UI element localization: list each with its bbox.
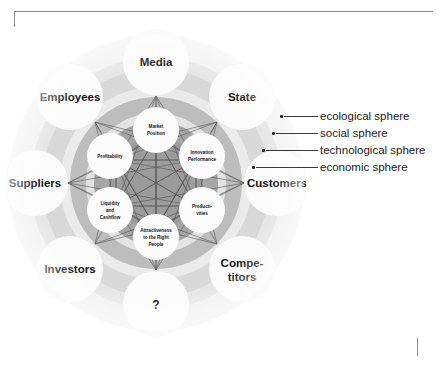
legend-dot-economic-sphere (252, 166, 255, 169)
legend-label-technological-sphere: technological sphere (320, 142, 426, 159)
legend-row-technological-sphere[interactable]: technological sphere (276, 142, 448, 159)
sphere-legend: ecological sphere social sphere technolo… (276, 108, 448, 176)
legend-label-social-sphere: social sphere (320, 125, 388, 142)
legend-row-social-sphere[interactable]: social sphere (276, 125, 448, 142)
spheres-diagram: Market Position Innovation Performance P… (6, 18, 306, 348)
legend-leader-social-sphere (276, 133, 318, 134)
legend-dot-social-sphere (272, 132, 275, 135)
legend-label-economic-sphere: economic sphere (320, 159, 408, 176)
crop-mark-top (14, 11, 433, 12)
page-canvas: Market Position Innovation Performance P… (0, 0, 448, 365)
diagram-canvas: Market Position Innovation Performance P… (6, 18, 306, 348)
legend-dot-ecological-sphere (280, 115, 283, 118)
crop-mark-bottom-right (417, 338, 418, 356)
legend-leader-technological-sphere (266, 150, 318, 151)
legend-label-ecological-sphere: ecological sphere (320, 108, 410, 125)
legend-leader-ecological-sphere (284, 116, 318, 117)
legend-row-ecological-sphere[interactable]: ecological sphere (276, 108, 448, 125)
legend-dot-technological-sphere (262, 149, 265, 152)
outer-soft-edge (8, 35, 304, 331)
legend-row-economic-sphere[interactable]: economic sphere (276, 159, 448, 176)
legend-leader-economic-sphere (256, 167, 318, 168)
